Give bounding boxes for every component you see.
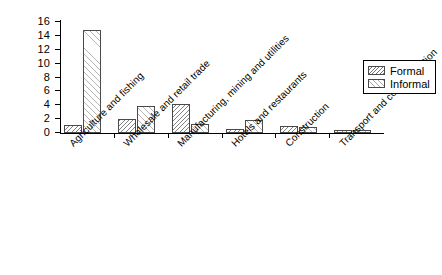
y-tick-label: 16 [22, 15, 50, 28]
y-tick-label: 14 [22, 29, 50, 42]
y-tick-label: 0 [22, 126, 50, 139]
x-tick-separator [168, 133, 169, 138]
x-tick-separator [275, 133, 276, 138]
y-tick-label: 4 [22, 98, 50, 111]
legend-label-informal: Informal [390, 78, 430, 90]
bar-chart: 0246810121416 Agriculture and fishingWho… [0, 0, 442, 275]
legend-swatch-informal-icon [368, 79, 385, 88]
chart-legend: Formal Informal [363, 60, 436, 94]
y-tick-label: 8 [22, 71, 50, 84]
legend-label-formal: Formal [390, 65, 424, 77]
x-tick-separator [329, 133, 330, 138]
y-tick-label: 6 [22, 84, 50, 97]
x-tick-separator [114, 133, 115, 138]
x-tick-separator [222, 133, 223, 138]
legend-item-formal: Formal [368, 64, 430, 77]
legend-item-informal: Informal [368, 77, 430, 90]
y-tick-label: 2 [22, 112, 50, 125]
plot-area [60, 22, 383, 133]
legend-swatch-formal-icon [368, 66, 385, 75]
y-tick-label: 10 [22, 57, 50, 70]
y-tick-label: 12 [22, 43, 50, 56]
